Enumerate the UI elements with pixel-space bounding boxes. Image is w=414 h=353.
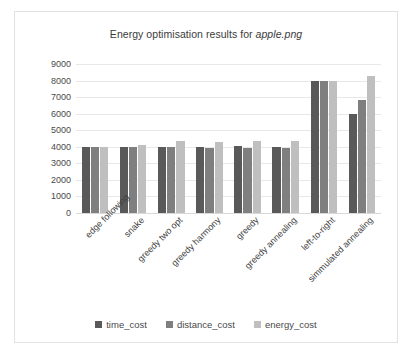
bar (215, 142, 223, 213)
bar-group (114, 64, 152, 213)
y-axis-tick-label: 9000 (27, 59, 71, 69)
bar (100, 147, 108, 213)
bar (167, 147, 175, 213)
y-axis-tick-label: 3000 (27, 158, 71, 168)
y-axis-tick-label: 6000 (27, 109, 71, 119)
legend-label: energy_cost (265, 319, 317, 330)
bar (320, 81, 328, 213)
bar (176, 141, 184, 213)
bar (91, 147, 99, 213)
y-axis-tick-label: 4000 (27, 142, 71, 152)
bar (129, 147, 137, 213)
y-axis-tick-label: 7000 (27, 92, 71, 102)
bar (158, 147, 166, 213)
x-axis-tick-label: greedy two opt (106, 215, 185, 294)
y-axis-tick-label: 0 (27, 208, 71, 218)
legend-item[interactable]: time_cost (95, 319, 147, 330)
legend-item[interactable]: distance_cost (166, 319, 235, 330)
bar (138, 145, 146, 213)
bar (282, 148, 290, 213)
y-axis-tick-label: 5000 (27, 125, 71, 135)
chart-title-italic: apple.png (256, 28, 303, 40)
bar-group (305, 64, 343, 213)
bar-group (152, 64, 190, 213)
bar-group (343, 64, 381, 213)
bar (243, 148, 251, 213)
bar (349, 114, 357, 213)
x-axis-tick-label: edge following (83, 215, 108, 240)
bars-layer (76, 64, 381, 213)
bar-group (267, 64, 305, 213)
legend-swatch-icon (166, 321, 173, 328)
y-axis-tick-label: 1000 (27, 191, 71, 201)
y-axis-tick-label: 2000 (27, 175, 71, 185)
x-axis-labels: edge followingsnakegreedy two optgreedy … (76, 213, 381, 308)
bar (367, 76, 375, 213)
bar (272, 147, 280, 213)
chart-legend: time_costdistance_costenergy_cost (15, 319, 397, 330)
chart-title-plain: Energy optimisation results for (110, 28, 256, 40)
legend-swatch-icon (95, 321, 102, 328)
bar (291, 141, 299, 213)
bar (329, 81, 337, 213)
bar-group (229, 64, 267, 213)
legend-label: time_cost (106, 319, 147, 330)
bar (234, 146, 242, 213)
bar (82, 147, 90, 213)
bar-group (76, 64, 114, 213)
legend-item[interactable]: energy_cost (254, 319, 317, 330)
bar (358, 100, 366, 213)
bar-group (190, 64, 228, 213)
y-axis-tick-label: 8000 (27, 76, 71, 86)
bar (253, 141, 261, 213)
chart-title: Energy optimisation results for apple.pn… (15, 28, 397, 40)
bar (311, 81, 319, 213)
chart-card: Energy optimisation results for apple.pn… (14, 11, 398, 343)
bar (196, 147, 204, 213)
legend-swatch-icon (254, 321, 261, 328)
plot-area: 0100020003000400050006000700080009000 (76, 64, 381, 213)
legend-label: distance_cost (177, 319, 235, 330)
bar (205, 148, 213, 213)
